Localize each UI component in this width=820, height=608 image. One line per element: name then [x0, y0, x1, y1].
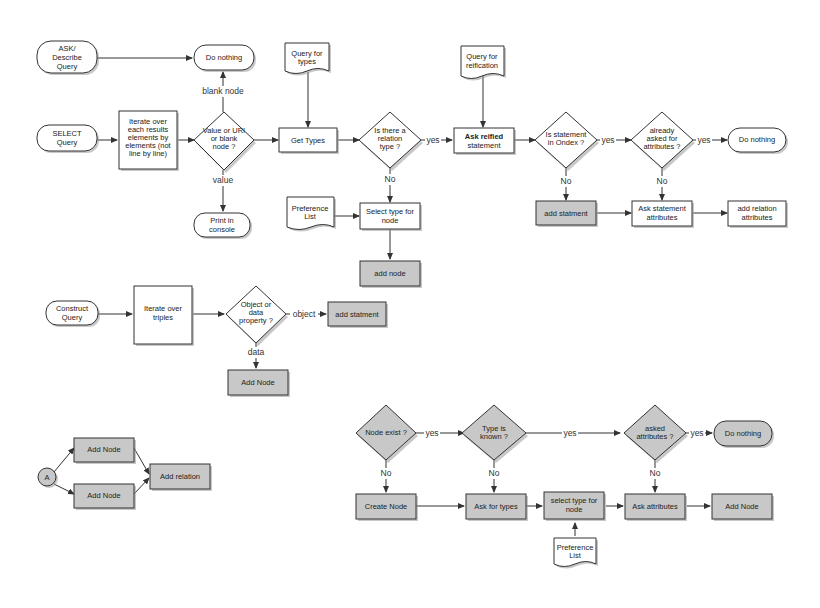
yes-label: yes — [563, 428, 576, 438]
svg-text:node: node — [566, 505, 583, 514]
svg-text:reification: reification — [466, 61, 498, 70]
ask-reified-statement-node: Ask reified statement — [454, 128, 516, 155]
get-types-node: Get Types — [279, 128, 339, 154]
no-label: No — [385, 174, 396, 184]
svg-text:attributes: attributes — [742, 213, 773, 222]
preference-list-doc: Preference List — [287, 197, 336, 232]
construct-query-node: Construct Query — [46, 301, 100, 327]
svg-text:attributes: attributes — [647, 213, 678, 222]
yes-label: yes — [601, 135, 614, 145]
svg-text:ASK/: ASK/ — [58, 44, 76, 53]
svg-text:add node: add node — [374, 269, 405, 278]
value-uri-decision: Value or URI or blank node ? — [194, 112, 256, 173]
object-label: object — [293, 309, 316, 319]
in-ondex-decision: Is statement in Ondex ? — [535, 112, 599, 171]
svg-text:attributes ?: attributes ? — [643, 142, 680, 151]
svg-text:Select type for: Select type for — [366, 207, 414, 216]
ask-describe-query-node: ASK/ Describe Query — [37, 41, 99, 75]
preference-list-node-flow: Preference List — [554, 538, 598, 569]
iterate-results-node: Iterate over each results elements by el… — [119, 111, 179, 171]
no-label: No — [381, 468, 392, 478]
svg-text:SELECT: SELECT — [52, 129, 82, 138]
svg-text:Do nothing: Do nothing — [725, 429, 761, 438]
add-statment-gray: add statment — [536, 201, 598, 227]
svg-text:Node exist ?: Node exist ? — [365, 428, 407, 437]
do-nothing-right-node: Do nothing — [728, 128, 788, 154]
svg-text:type ?: type ? — [380, 142, 400, 151]
add-node-flow-gray: Add Node — [712, 494, 774, 521]
no-label: No — [561, 176, 572, 186]
add-node-a-top: Add Node — [74, 438, 136, 464]
add-node-construct-gray: Add Node — [228, 370, 290, 397]
svg-text:types: types — [298, 57, 316, 66]
svg-text:Do nothing: Do nothing — [206, 53, 242, 62]
svg-text:Query: Query — [57, 62, 78, 71]
already-asked-decision: already asked for attributes ? — [631, 112, 695, 171]
svg-text:Add relation: Add relation — [160, 472, 200, 481]
svg-text:Query: Query — [62, 313, 83, 322]
no-label: No — [650, 468, 661, 478]
svg-text:attributes ?: attributes ? — [636, 432, 673, 441]
no-label: No — [489, 468, 500, 478]
add-relation-attributes-node: add relation attributes — [728, 201, 788, 228]
svg-text:Add Node: Add Node — [87, 491, 120, 500]
do-nothing-top-node: Do nothing — [194, 45, 256, 72]
yes-label: yes — [690, 428, 703, 438]
asked-attributes-decision: asked attributes ? — [624, 405, 688, 463]
svg-text:node ?: node ? — [213, 142, 236, 151]
svg-text:Add Node: Add Node — [725, 502, 758, 511]
svg-text:Do nothing: Do nothing — [739, 135, 775, 144]
no-label: No — [657, 176, 668, 186]
query-reification-doc: Query for reification — [461, 46, 506, 81]
create-node-gray: Create Node — [356, 494, 418, 521]
svg-text:console: console — [209, 225, 235, 234]
data-label: data — [248, 347, 265, 357]
node-exist-decision: Node exist ? — [356, 405, 418, 463]
query-types-doc: Query for types — [285, 43, 331, 76]
svg-text:in Ondex ?: in Ondex ? — [548, 138, 584, 147]
svg-text:Create Node: Create Node — [365, 502, 408, 511]
svg-text:Add Node: Add Node — [241, 378, 274, 387]
svg-text:Add Node: Add Node — [87, 445, 120, 454]
svg-text:triples: triples — [153, 313, 173, 322]
relation-type-decision: Is there a relation type ? — [359, 112, 423, 171]
svg-text:select type for: select type for — [551, 496, 598, 505]
do-nothing-node-flow: Do nothing — [714, 421, 774, 448]
svg-text:Print in: Print in — [210, 216, 233, 225]
yes-label: yes — [425, 428, 438, 438]
object-data-decision: Object or data property ? — [226, 286, 288, 346]
type-known-decision: Type is known ? — [462, 405, 528, 463]
ask-statement-attributes-node: Ask statement attributes — [632, 201, 694, 228]
svg-text:Ask for types: Ask for types — [474, 502, 518, 511]
select-type-node: Select type for node — [360, 203, 422, 231]
svg-text:add relation: add relation — [737, 204, 776, 213]
add-node-a-bottom: Add Node — [74, 484, 136, 510]
svg-text:Ask attributes: Ask attributes — [632, 502, 678, 511]
yes-label: yes — [426, 135, 439, 145]
add-relation-a: Add relation — [150, 464, 212, 491]
svg-text:add statment: add statment — [335, 310, 379, 319]
svg-text:A: A — [44, 473, 49, 482]
print-console-node: Print in console — [194, 213, 252, 239]
svg-text:node: node — [382, 216, 399, 225]
svg-text:Query for: Query for — [466, 52, 498, 61]
value-label: value — [213, 175, 234, 185]
svg-text:Query: Query — [57, 138, 78, 147]
iterate-triples-node: Iterate over triples — [134, 286, 194, 346]
ask-attributes-gray: Ask attributes — [625, 494, 687, 521]
ask-types-gray: Ask for types — [466, 494, 528, 521]
svg-text:List: List — [304, 212, 317, 221]
svg-text:statement: statement — [468, 141, 502, 150]
svg-text:add statment: add statment — [544, 209, 588, 218]
svg-text:property ?: property ? — [239, 316, 273, 325]
svg-text:known ?: known ? — [480, 432, 508, 441]
svg-text:Describe: Describe — [52, 53, 82, 62]
svg-text:Construct: Construct — [56, 304, 89, 313]
select-query-node: SELECT Query — [37, 125, 99, 153]
svg-text:Ask reified: Ask reified — [465, 132, 504, 141]
svg-text:line by line): line by line) — [129, 149, 167, 158]
svg-text:Get Types: Get Types — [291, 136, 325, 145]
svg-text:Ask statement: Ask statement — [638, 204, 686, 213]
svg-text:List: List — [569, 551, 582, 560]
select-type-gray: select type for node — [544, 492, 606, 521]
